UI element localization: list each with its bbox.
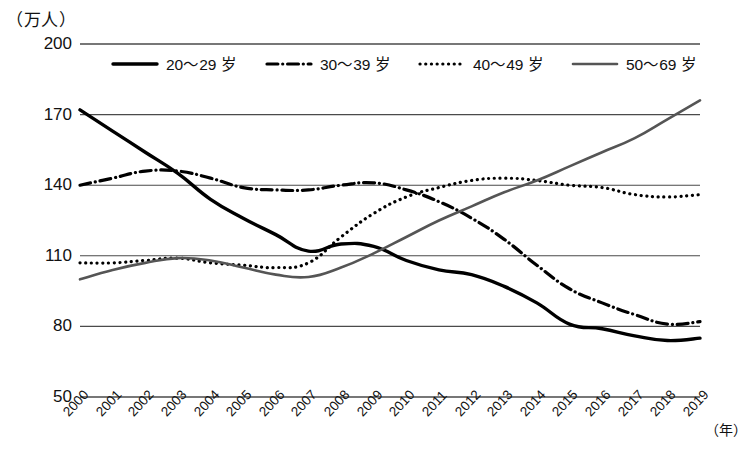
line-chart: （万人） 2001701401108050 20～29 岁30～39 岁40～4… <box>0 0 748 467</box>
legend-label-0: 20～29 岁 <box>166 56 237 73</box>
gridlines <box>80 44 700 397</box>
legend-label-2: 40～49 岁 <box>473 56 544 73</box>
chart-legend: 20～29 岁30～39 岁40～49 岁50～69 岁 <box>113 56 697 73</box>
legend-label-3: 50～69 岁 <box>626 56 697 73</box>
legend-label-1: 30～39 岁 <box>320 56 391 73</box>
series-layer <box>80 100 700 340</box>
series-line-1 <box>80 170 700 325</box>
x-axis-unit-label: （年） <box>705 419 747 439</box>
